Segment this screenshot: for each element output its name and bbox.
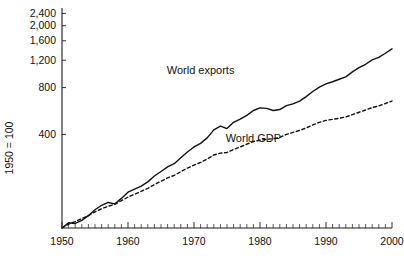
chart-container: 2,4002,0001,6001,200800400 1950196019701… xyxy=(0,0,404,258)
y-tick-label-1600: 1,600 xyxy=(30,34,56,46)
x-axis: 195019601970198019902000 xyxy=(50,222,404,247)
y-tick-label-2000: 2,000 xyxy=(30,19,56,31)
x-axis-tick-labels: 195019601970198019902000 xyxy=(50,235,404,247)
y-tick-label-800: 800 xyxy=(38,81,56,93)
y-tick-label-2400: 2,400 xyxy=(30,7,56,19)
annotation-world-gdp: World GDP xyxy=(226,132,281,144)
y-tick-label-400: 400 xyxy=(38,128,56,140)
x-tick-label-1970: 1970 xyxy=(182,235,206,247)
x-tick-label-1990: 1990 xyxy=(314,235,338,247)
y-axis-ticks xyxy=(62,13,66,134)
series-annotations: World exportsWorld GDP xyxy=(167,64,281,144)
y-axis-title: 1950 = 100 xyxy=(3,121,15,174)
y-axis-tick-labels: 2,4002,0001,6001,200800400 xyxy=(30,7,56,140)
series-line-world-gdp xyxy=(62,101,392,228)
x-tick-label-1980: 1980 xyxy=(248,235,272,247)
x-tick-label-2000: 2000 xyxy=(380,235,404,247)
y-axis: 2,4002,0001,6001,200800400 xyxy=(30,7,66,228)
x-tick-label-1960: 1960 xyxy=(116,235,140,247)
x-axis-minor-ticks xyxy=(62,222,392,228)
x-tick-label-1950: 1950 xyxy=(50,235,74,247)
annotation-world-exports: World exports xyxy=(167,64,235,76)
world-trade-growth-chart: 2,4002,0001,6001,200800400 1950196019701… xyxy=(0,0,404,258)
y-tick-label-1200: 1,200 xyxy=(30,54,56,66)
